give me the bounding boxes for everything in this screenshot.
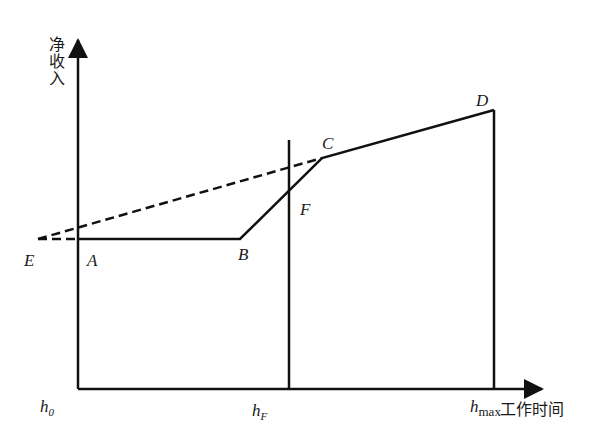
x-axis-label: 工作时间 (500, 402, 564, 418)
tick-hmax: hmax (470, 398, 501, 418)
point-label-a: A (87, 252, 97, 269)
point-label-e: E (24, 252, 34, 269)
labor-supply-diagram (0, 0, 614, 441)
point-label-b: B (238, 246, 248, 263)
point-label-c: C (322, 135, 333, 152)
budget-line-a-b-c-d (78, 110, 494, 239)
point-label-d: D (476, 92, 488, 109)
y-axis-label: 净收入 (47, 36, 63, 87)
point-label-f: F (300, 201, 310, 218)
tick-h0: h0 (40, 398, 54, 418)
tick-hf: hF (252, 402, 267, 422)
